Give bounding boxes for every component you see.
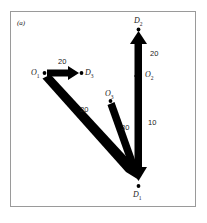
flow-value-o2-d1: 10 (148, 119, 156, 127)
flow-value-o1-d1: 20 (80, 106, 88, 114)
panel-tag: (a) (17, 20, 25, 27)
node-sub-o2: 2 (151, 75, 154, 81)
node-label-d1: D1 (133, 191, 142, 201)
node-sub-o3: 3 (111, 94, 114, 100)
figure-root: (a) O1 D3 O3 O2 D2 D1 20 20 30 10 20 (0, 0, 207, 223)
node-label-o2: O2 (145, 71, 154, 81)
node-dot-o2 (137, 74, 141, 78)
flow-value-o2-d2: 20 (150, 50, 158, 58)
node-dot-o1 (43, 71, 47, 75)
node-label-d3: D3 (85, 69, 94, 79)
flow-value-o3-d1: 30 (121, 124, 129, 132)
node-dot-d1 (137, 184, 141, 188)
node-sub-d1: 1 (139, 195, 142, 201)
node-label-o1: O1 (31, 69, 40, 79)
node-label-o3: O3 (105, 90, 114, 100)
node-dot-d3 (80, 71, 84, 75)
node-sub-o1: 1 (37, 73, 40, 79)
node-sub-d3: 3 (91, 73, 94, 79)
flow-diagram-canvas (0, 0, 207, 223)
node-sub-d2: 2 (140, 21, 143, 27)
node-label-d2: D2 (134, 17, 143, 27)
flow-value-o1-d3: 20 (58, 58, 66, 66)
node-dot-d2 (137, 28, 141, 32)
